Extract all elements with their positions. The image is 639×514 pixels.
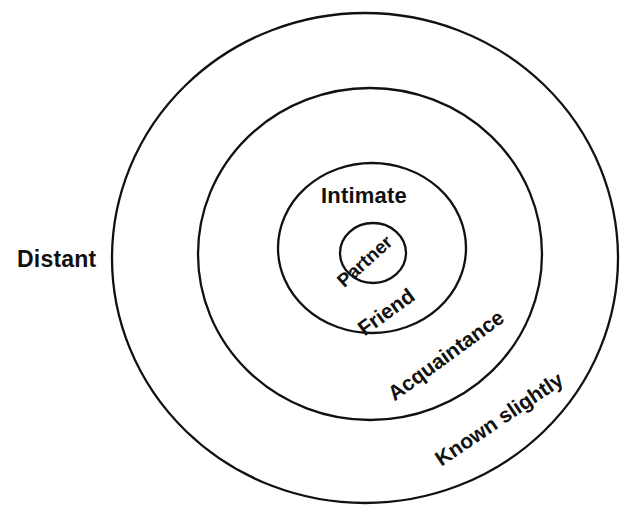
label-intimate: Intimate <box>321 185 407 207</box>
label-distant: Distant <box>17 248 96 271</box>
relationship-circles-diagram: Distant Intimate Partner Friend Acquaint… <box>0 0 639 514</box>
